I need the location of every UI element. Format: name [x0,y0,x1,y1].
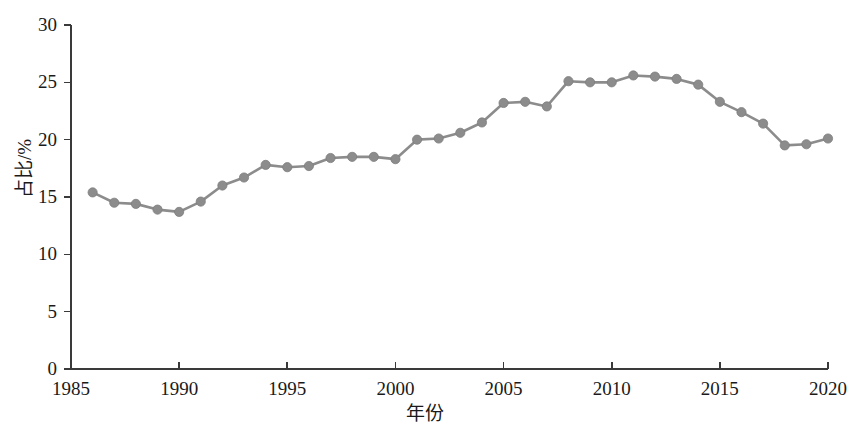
y-tick-label: 30 [5,15,57,34]
data-point-marker [694,80,703,89]
axis-ticks [64,25,828,369]
data-point-marker [391,155,400,164]
x-tick-label: 2015 [690,379,750,398]
x-tick-label: 1985 [41,379,101,398]
data-point-marker [412,135,421,144]
data-point-marker [218,181,227,190]
y-tick-label: 25 [5,72,57,91]
data-point-marker [715,97,724,106]
data-point-marker [823,134,832,143]
y-tick-label: 0 [5,359,57,378]
axes [71,25,828,369]
series-line [93,75,828,211]
data-point-marker [672,74,681,83]
data-point-marker [283,163,292,172]
line-chart: 051015202530 198519901995200020052010201… [0,0,850,427]
data-point-marker [607,78,616,87]
data-point-marker [131,199,140,208]
data-point-marker [499,98,508,107]
data-point-marker [585,78,594,87]
data-point-marker [110,198,119,207]
data-point-marker [326,153,335,162]
data-point-marker [369,152,378,161]
data-point-marker [521,97,530,106]
data-point-marker [802,140,811,149]
data-point-marker [239,173,248,182]
y-tick-label: 5 [5,302,57,321]
x-tick-label: 2010 [582,379,642,398]
x-tick-label: 2005 [474,379,534,398]
data-point-marker [261,160,270,169]
data-point-marker [456,128,465,137]
x-axis-title: 年份 [0,398,850,425]
data-point-marker [348,152,357,161]
data-point-marker [542,102,551,111]
y-tick-label: 10 [5,244,57,263]
data-point-marker [477,118,486,127]
x-tick-label: 1990 [149,379,209,398]
data-point-marker [650,72,659,81]
data-point-marker [88,188,97,197]
data-point-marker [780,141,789,150]
data-series [88,71,833,217]
plot-area [0,0,850,427]
y-axis-title: 占比/% [9,109,36,229]
data-point-marker [175,207,184,216]
data-point-marker [564,77,573,86]
data-point-marker [737,108,746,117]
x-tick-label: 2020 [798,379,850,398]
data-point-marker [153,205,162,214]
data-point-marker [434,134,443,143]
data-point-marker [196,197,205,206]
data-point-marker [304,161,313,170]
x-tick-label: 1995 [257,379,317,398]
data-point-marker [759,119,768,128]
data-point-marker [629,71,638,80]
x-tick-label: 2000 [365,379,425,398]
